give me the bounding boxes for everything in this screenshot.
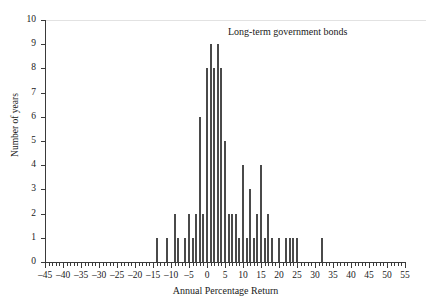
x-tick-minor: [196, 263, 197, 266]
x-axis-title: Annual Percentage Return: [45, 285, 406, 296]
histogram-bar: [249, 189, 251, 262]
y-tick: [41, 189, 46, 190]
x-tick-minor: [203, 263, 204, 266]
x-tick-major: [405, 263, 406, 268]
x-tick-minor: [322, 263, 323, 266]
x-tick-major: [279, 263, 280, 268]
x-tick-minor: [286, 263, 287, 266]
x-tick-minor: [340, 263, 341, 266]
x-tick-minor: [247, 263, 248, 266]
histogram-bar: [260, 165, 262, 262]
x-tick-minor: [146, 263, 147, 266]
y-tick: [41, 214, 46, 215]
histogram-bar: [238, 238, 240, 262]
histogram-bar: [206, 68, 208, 262]
histogram-bar: [188, 214, 190, 262]
x-tick-label: 55: [390, 270, 420, 280]
histogram-bar: [199, 117, 201, 262]
series-annotation: Long-term government bonds: [228, 26, 347, 37]
x-tick-minor: [88, 263, 89, 266]
histogram-bar: [192, 238, 194, 262]
x-tick-minor: [362, 263, 363, 266]
y-tick: [41, 238, 46, 239]
histogram-bar: [246, 238, 248, 262]
x-tick-minor: [229, 263, 230, 266]
x-tick-major: [225, 263, 226, 268]
histogram-figure: 012345678910 –45–40–35–30–25–20–15–10–50…: [0, 0, 426, 307]
x-tick-minor: [124, 263, 125, 266]
x-tick-minor: [70, 263, 71, 266]
histogram-bar: [231, 214, 233, 262]
x-tick-minor: [311, 263, 312, 266]
x-tick-major: [297, 263, 298, 268]
x-tick-minor: [175, 263, 176, 266]
y-tick-label: 0: [8, 257, 36, 267]
histogram-bar: [213, 68, 215, 262]
x-tick-minor: [272, 263, 273, 266]
x-tick-minor: [56, 263, 57, 266]
x-tick-minor: [178, 263, 179, 266]
x-tick-minor: [167, 263, 168, 266]
plot-area: 012345678910 –45–40–35–30–25–20–15–10–50…: [0, 0, 426, 307]
x-tick-minor: [193, 263, 194, 266]
histogram-bar: [174, 214, 176, 262]
histogram-bar: [267, 214, 269, 262]
y-tick-label: 10: [8, 15, 36, 25]
x-tick-major: [189, 263, 190, 268]
x-tick-minor: [218, 263, 219, 266]
x-tick-minor: [383, 263, 384, 266]
x-tick-minor: [250, 263, 251, 266]
y-tick-label: 9: [8, 39, 36, 49]
y-tick-label: 3: [8, 184, 36, 194]
x-tick-minor: [85, 263, 86, 266]
x-tick-minor: [365, 263, 366, 266]
histogram-bar: [177, 238, 179, 262]
x-tick-minor: [95, 263, 96, 266]
x-tick-minor: [236, 263, 237, 266]
x-tick-minor: [293, 263, 294, 266]
x-tick-minor: [301, 263, 302, 266]
x-tick-minor: [103, 263, 104, 266]
y-tick-label: 2: [8, 209, 36, 219]
histogram-bar: [289, 238, 291, 262]
x-tick-minor: [200, 263, 201, 266]
x-tick-major: [207, 263, 208, 268]
x-tick-minor: [52, 263, 53, 266]
x-tick-minor: [398, 263, 399, 266]
x-tick-minor: [239, 263, 240, 266]
histogram-bar: [292, 238, 294, 262]
histogram-bar: [253, 238, 255, 262]
x-tick-minor: [142, 263, 143, 266]
histogram-bar: [242, 165, 244, 262]
y-axis-title: Number of years: [10, 65, 20, 185]
x-tick-minor: [214, 263, 215, 266]
x-tick-minor: [106, 263, 107, 266]
x-tick-minor: [164, 263, 165, 266]
x-tick-minor: [221, 263, 222, 266]
x-tick-minor: [182, 263, 183, 266]
y-tick: [41, 165, 46, 166]
x-tick-minor: [211, 263, 212, 266]
x-tick-minor: [337, 263, 338, 266]
x-tick-major: [351, 263, 352, 268]
histogram-bar: [184, 238, 186, 262]
x-tick-minor: [128, 263, 129, 266]
x-tick-minor: [232, 263, 233, 266]
y-tick: [41, 141, 46, 142]
x-tick-minor: [139, 263, 140, 266]
x-tick-minor: [391, 263, 392, 266]
x-tick-minor: [67, 263, 68, 266]
y-tick: [41, 20, 46, 21]
x-tick-major: [387, 263, 388, 268]
x-tick-minor: [401, 263, 402, 266]
x-tick-major: [45, 263, 46, 268]
x-tick-minor: [376, 263, 377, 266]
histogram-bar: [220, 68, 222, 262]
histogram-bar: [217, 44, 219, 262]
histogram-bar: [256, 214, 258, 262]
x-tick-minor: [254, 263, 255, 266]
x-tick-minor: [380, 263, 381, 266]
histogram-bar: [235, 214, 237, 262]
x-tick-major: [63, 263, 64, 268]
x-tick-major: [315, 263, 316, 268]
